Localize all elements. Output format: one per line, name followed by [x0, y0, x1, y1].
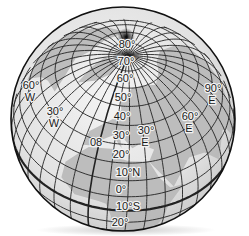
- latitude-label: 50°: [115, 91, 132, 103]
- longitude-label-hemisphere: E: [208, 94, 215, 106]
- longitude-label-hemisphere: W: [25, 91, 36, 103]
- latitude-label: 10°N: [116, 166, 141, 178]
- latitude-label: 40°: [114, 110, 131, 122]
- longitude-label: 60°: [23, 79, 40, 91]
- latitude-label: 30°: [113, 129, 130, 141]
- latitude-label: 70°: [118, 55, 135, 67]
- latitude-label: 20°: [112, 216, 129, 228]
- longitude-label: 30°: [47, 105, 64, 117]
- longitude-label-hemisphere: W: [49, 117, 60, 129]
- latitude-label: 10°S: [116, 200, 140, 212]
- latitude-label: 60°: [117, 72, 134, 84]
- longitude-label: 30°: [138, 124, 155, 136]
- latitude-label: 20°: [113, 148, 130, 160]
- longitude-label: 90°: [205, 82, 222, 94]
- latitude-label: 0°: [116, 183, 127, 195]
- longitude-label: 08: [90, 136, 102, 148]
- longitude-label-hemisphere: E: [185, 122, 192, 134]
- longitude-label: 60°: [182, 110, 199, 122]
- latitude-label: 80°: [119, 38, 136, 50]
- globe-diagram: 80°70°60°50°40°30°20°10°N0°10°S20° 60°W3…: [0, 0, 249, 236]
- longitude-label-hemisphere: E: [141, 136, 148, 148]
